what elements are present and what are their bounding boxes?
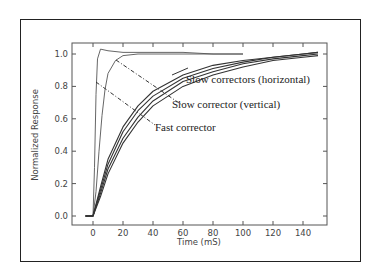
x-tick-label: 140 — [295, 228, 311, 238]
x-tick-label: 20 — [118, 228, 129, 238]
y-tick-label: 0.4 — [54, 146, 68, 156]
x-tick-label: 0 — [90, 228, 95, 238]
x-tick-label: 100 — [235, 228, 251, 238]
annotation-slow-horizontal: Slow correctors (horizontal) — [186, 73, 310, 86]
x-tick-label: 40 — [148, 228, 159, 238]
chart: 0204060801001201400.00.20.40.60.81.0 Slo… — [0, 0, 379, 280]
y-tick-label: 0.0 — [54, 211, 68, 221]
x-tick-label: 120 — [265, 228, 281, 238]
y-tick-label: 0.6 — [54, 114, 68, 124]
x-axis-label: Time (mS) — [176, 237, 221, 247]
y-tick-label: 1.0 — [54, 49, 68, 59]
annotation-slow-vertical: Slow corrector (vertical) — [172, 98, 280, 111]
y-tick-label: 0.2 — [54, 179, 68, 189]
y-tick-label: 0.8 — [54, 81, 68, 91]
y-axis-label: Normalized Response — [30, 89, 40, 181]
annotation-fast: Fast corrector — [155, 121, 216, 133]
